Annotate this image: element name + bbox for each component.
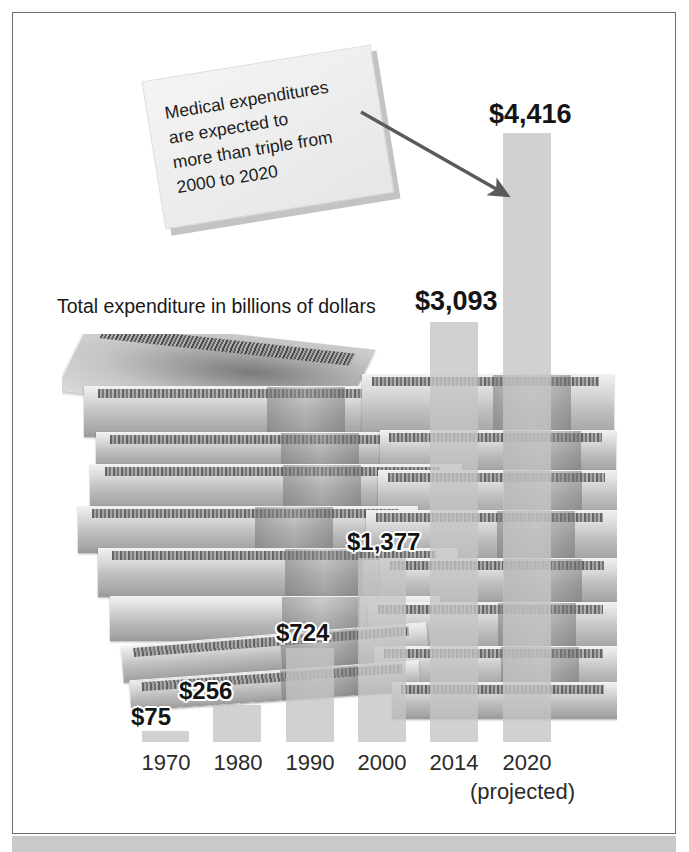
- bottom-color-band: [12, 836, 676, 852]
- x-axis-projected-note: (projected): [470, 779, 575, 805]
- x-axis-label-2014: 2014: [421, 750, 487, 776]
- infographic-page: $75 $256 $724 $1,377 $3,093 $4,416 Total…: [0, 0, 689, 852]
- value-label-2000: $1,377: [347, 528, 420, 556]
- x-axis-label-1970: 1970: [133, 750, 199, 776]
- x-axis-label-1980: 1980: [205, 750, 271, 776]
- bar-2000: [358, 558, 406, 742]
- bar-2014: [430, 322, 478, 742]
- bar-1990: [286, 648, 334, 742]
- callout-arrow-icon: [355, 100, 515, 210]
- value-label-1980: $256: [179, 677, 232, 705]
- x-axis-label-1990: 1990: [277, 750, 343, 776]
- x-axis-label-2020: 2020: [494, 750, 560, 776]
- value-label-1970: $75: [131, 703, 171, 731]
- bar-1970: [142, 731, 189, 742]
- value-label-1990: $724: [276, 619, 329, 647]
- callout-note-text: Medical expenditures are expected to mor…: [163, 70, 375, 201]
- chart-title: Total expenditure in billions of dollars: [57, 294, 381, 319]
- x-axis-label-2000: 2000: [349, 750, 415, 776]
- bar-2020: [503, 133, 551, 742]
- value-label-2014: $3,093: [415, 286, 498, 317]
- bar-1980: [213, 705, 261, 742]
